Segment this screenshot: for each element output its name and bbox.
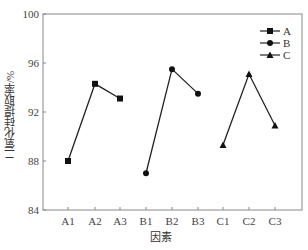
data-point-B xyxy=(169,66,175,72)
x-tick-label: C1 xyxy=(217,215,230,227)
line-chart: 84889296100A1A2A3B1B2B3C1C2C3ABC xyxy=(0,0,308,250)
x-tick-label: B1 xyxy=(140,215,153,227)
legend-marker-B xyxy=(267,40,273,46)
series-line-B xyxy=(146,69,198,173)
data-point-B xyxy=(195,91,201,97)
data-point-C xyxy=(220,142,227,149)
data-point-A xyxy=(65,158,71,164)
data-point-C xyxy=(272,122,279,129)
x-tick-label: B3 xyxy=(192,215,205,227)
y-tick-label: 100 xyxy=(23,8,40,20)
series-line-A xyxy=(68,84,120,161)
y-tick-label: 92 xyxy=(28,106,39,118)
legend-label-C: C xyxy=(283,49,290,61)
x-tick-label: C3 xyxy=(269,215,282,227)
data-point-C xyxy=(246,71,253,78)
y-tick-label: 84 xyxy=(28,204,40,216)
data-point-B xyxy=(143,170,149,176)
x-tick-label: A3 xyxy=(113,215,127,227)
y-tick-label: 96 xyxy=(28,57,40,69)
legend-label-A: A xyxy=(283,25,291,37)
x-tick-label: A1 xyxy=(61,215,74,227)
data-point-A xyxy=(117,96,123,102)
x-tick-label: A2 xyxy=(88,215,101,227)
legend-marker-A xyxy=(267,28,273,34)
series-line-C xyxy=(223,74,275,145)
x-axis-label: 因素 xyxy=(150,228,172,244)
y-axis-label: 二氧化硅提取率/% xyxy=(2,60,18,170)
x-tick-label: C2 xyxy=(243,215,256,227)
y-tick-label: 88 xyxy=(28,155,40,167)
x-tick-label: B2 xyxy=(166,215,179,227)
legend-label-B: B xyxy=(283,37,290,49)
data-point-A xyxy=(92,81,98,87)
